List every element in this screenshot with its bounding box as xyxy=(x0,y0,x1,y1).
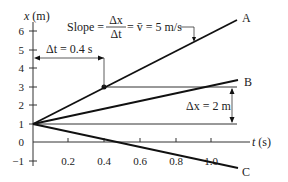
slope-pointer-line xyxy=(180,27,194,40)
label-a: A xyxy=(242,11,251,25)
svg-text:1: 1 xyxy=(19,118,25,130)
svg-text:6: 6 xyxy=(19,25,25,37)
delta-x-arrow-up xyxy=(230,88,235,94)
x-axis-ticks xyxy=(68,138,211,142)
y-axis-label: x (m) xyxy=(23,9,50,23)
position-time-chart: 6 5 4 3 2 1 0 −1 0.2 0.4 0.6 0.8 1.0 x (… xyxy=(0,0,288,182)
delta-x-arrow-down xyxy=(230,117,235,123)
svg-text:5: 5 xyxy=(19,44,25,56)
delta-t-label: Δt = 0.4 s xyxy=(46,42,93,56)
slope-suffix: = v̄ = 5 m/s xyxy=(127,20,182,34)
svg-text:−1: −1 xyxy=(12,155,24,167)
slope-numerator: Δx xyxy=(109,13,123,27)
svg-text:0.4: 0.4 xyxy=(97,155,111,167)
label-c: C xyxy=(242,165,250,179)
y-tick-labels: 6 5 4 3 2 1 0 −1 xyxy=(12,25,24,167)
svg-text:0.8: 0.8 xyxy=(169,155,183,167)
x-tick-labels: 0.2 0.4 0.6 0.8 1.0 xyxy=(61,155,218,167)
svg-text:0.2: 0.2 xyxy=(61,155,75,167)
chart-svg: 6 5 4 3 2 1 0 −1 0.2 0.4 0.6 0.8 1.0 x (… xyxy=(0,0,288,182)
svg-text:0: 0 xyxy=(19,136,25,148)
svg-text:4: 4 xyxy=(19,62,25,74)
slope-prefix: Slope = xyxy=(67,20,104,34)
slope-denominator: Δt xyxy=(110,27,122,41)
label-b: B xyxy=(244,75,252,89)
svg-text:0.6: 0.6 xyxy=(133,155,147,167)
delta-t-arrow-right xyxy=(98,56,104,61)
delta-t-arrow-left xyxy=(34,56,40,61)
delta-x-label: Δx = 2 m xyxy=(186,99,231,113)
x-axis-label: t (s) xyxy=(252,135,271,149)
svg-text:2: 2 xyxy=(19,99,25,111)
svg-text:3: 3 xyxy=(19,81,25,93)
